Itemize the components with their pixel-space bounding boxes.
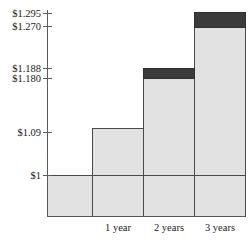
y-tick-label-1: $1	[0, 170, 41, 181]
x-category-label-3-years: 3 years	[194, 222, 246, 234]
y-axis-line	[47, 10, 48, 216]
bar-cap-3-years	[194, 12, 246, 28]
principal-divider-4	[245, 175, 246, 216]
y-tick-mark-1270	[43, 26, 52, 27]
y-tick-label-109: $1.09	[0, 127, 41, 138]
x-category-label-1-year: 1 year	[92, 222, 144, 234]
y-tick-label-1180: $1.180	[0, 73, 41, 84]
x-axis-line	[47, 216, 245, 217]
y-tick-mark-1180	[43, 78, 52, 79]
y-tick-mark-1295	[43, 13, 52, 14]
bar-chart: $1.295 $1.270 $1.188 $1.180 $1.09 $1 1 y…	[0, 0, 250, 246]
y-tick-label-1270: $1.270	[0, 21, 41, 32]
x-category-label-2-years: 2 years	[143, 222, 195, 234]
principal-divider-3	[194, 175, 195, 216]
principal-divider-1	[92, 175, 93, 216]
principal-band	[47, 175, 245, 216]
principal-divider-2	[143, 175, 144, 216]
y-tick-mark-1	[43, 175, 52, 176]
y-tick-mark-109	[43, 132, 52, 133]
y-tick-mark-1188	[43, 68, 52, 69]
bar-cap-2-years	[143, 68, 195, 79]
y-tick-label-1295: $1.295	[0, 8, 41, 19]
